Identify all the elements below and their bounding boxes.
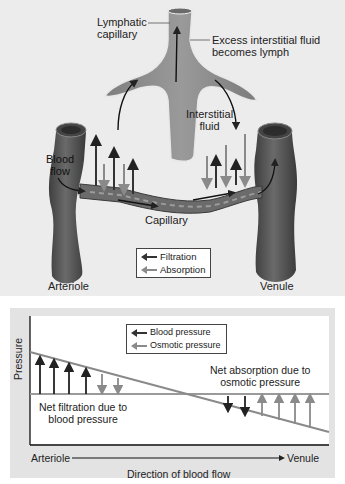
lymphatic-capillary-label: Lymphatic capillary — [97, 16, 147, 40]
capillary-exchange-illustration: Lymphatic capillary Excess interstitial … — [0, 0, 345, 296]
arteriole-label: Arteriole — [48, 280, 89, 292]
filtration-arrows — [96, 140, 236, 194]
legend-item-osmotic-pressure: Osmotic pressure — [131, 339, 221, 352]
net-filtration-annotation: Net filtration due to blood pressure — [39, 401, 127, 425]
legend-item-absorption: Absorption — [141, 263, 205, 276]
x-start-label: Arteriole — [31, 452, 70, 464]
dark-arrow-icon — [141, 253, 157, 261]
pressure-chart-panel: Pressure Arteriole Venule Direction of b… — [0, 296, 345, 484]
arteriole-vessel — [49, 123, 86, 283]
filtration-absorption-legend: Filtration Absorption — [136, 248, 211, 278]
y-axis-label: Pressure — [12, 338, 24, 380]
net-absorption-annotation: Net absorption due to osmotic pressure — [210, 364, 310, 388]
capillary-label: Capillary — [145, 214, 188, 226]
x-axis-label: Direction of blood flow — [127, 468, 230, 480]
legend-item-filtration: Filtration — [141, 250, 205, 263]
chart-legend: Blood pressure Osmotic pressure — [126, 324, 227, 354]
blood-flow-label: Blood flow — [46, 153, 74, 177]
venule-label: Venule — [260, 280, 294, 292]
lymph-flow-arrow — [176, 30, 177, 82]
grey-arrow-icon — [141, 266, 157, 274]
venule-vessel — [254, 123, 297, 282]
blood-capillary — [80, 184, 262, 213]
pressure-chart: Pressure Arteriole Venule Direction of b… — [10, 308, 335, 478]
x-end-label: Venule — [287, 452, 319, 464]
legend-item-blood-pressure: Blood pressure — [131, 326, 221, 339]
interstitial-fluid-label: Interstitial fluid — [186, 108, 233, 132]
grey-arrow-icon — [131, 342, 147, 350]
excess-fluid-label: Excess interstitial fluid becomes lymph — [212, 34, 320, 58]
dark-arrow-icon — [131, 329, 147, 337]
